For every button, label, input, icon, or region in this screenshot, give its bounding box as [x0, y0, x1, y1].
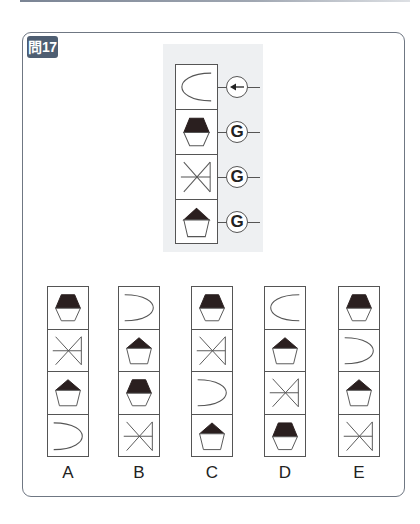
option-label[interactable]: E — [338, 463, 380, 483]
arrow-left-operator — [226, 76, 248, 98]
figure-cell — [119, 287, 159, 330]
arrow-left-icon — [229, 82, 245, 92]
figure-cell — [176, 65, 217, 110]
figure-cell — [119, 330, 159, 373]
figure-cell — [339, 415, 379, 458]
figure-cell — [48, 330, 88, 373]
g-operator: G — [226, 211, 248, 233]
figure-cell — [265, 330, 305, 373]
x-bar-icon — [48, 330, 88, 372]
pentagon-top-filled-icon — [339, 372, 379, 414]
answer-option-a[interactable] — [47, 286, 89, 457]
operator-text: G — [230, 122, 243, 142]
figure-cell — [176, 155, 217, 200]
answer-option-c[interactable] — [191, 286, 233, 457]
figure-cell — [192, 330, 232, 373]
top-divider — [20, 0, 410, 2]
figure-cell — [192, 415, 232, 458]
x-bar-icon — [176, 155, 217, 199]
x-bar-icon — [339, 415, 379, 458]
pentagon-top-filled-icon — [192, 415, 232, 458]
hexagon-half-filled-icon — [339, 287, 379, 329]
hexagon-half-filled-icon — [119, 372, 159, 414]
figure-cell — [265, 415, 305, 458]
pentagon-top-filled-icon — [119, 330, 159, 372]
figure-cell — [192, 372, 232, 415]
figure-cell — [339, 287, 379, 330]
figure-cell — [48, 415, 88, 458]
hexagon-half-filled-icon — [48, 287, 88, 329]
question-number-badge: 問17 — [27, 36, 58, 58]
arc-open-left-icon — [339, 330, 379, 372]
arc-open-right-icon — [265, 287, 305, 329]
answer-option-e[interactable] — [338, 286, 380, 457]
pentagon-top-filled-icon — [48, 372, 88, 414]
g-operator: G — [226, 121, 248, 143]
answer-option-b[interactable] — [118, 286, 160, 457]
x-bar-icon — [119, 415, 159, 458]
hexagon-half-filled-icon — [176, 110, 217, 154]
figure-cell — [265, 372, 305, 415]
figure-cell — [119, 372, 159, 415]
x-bar-icon — [192, 330, 232, 372]
question-figure-stack — [175, 64, 218, 244]
arc-open-right-icon — [176, 65, 217, 109]
figure-cell — [176, 200, 217, 245]
hexagon-half-filled-icon — [265, 415, 305, 458]
arc-open-left-icon — [48, 415, 88, 458]
figure-cell — [119, 415, 159, 458]
arc-open-left-icon — [119, 287, 159, 329]
option-label[interactable]: A — [47, 463, 89, 483]
answer-option-d[interactable] — [264, 286, 306, 457]
g-operator: G — [226, 166, 248, 188]
figure-cell — [176, 110, 217, 155]
pentagon-top-filled-icon — [176, 200, 217, 245]
option-label[interactable]: C — [191, 463, 233, 483]
pentagon-top-filled-icon — [265, 330, 305, 372]
hexagon-half-filled-icon — [192, 287, 232, 329]
x-bar-icon — [265, 372, 305, 414]
option-label[interactable]: B — [118, 463, 160, 483]
option-label[interactable]: D — [264, 463, 306, 483]
operator-text: G — [230, 212, 243, 232]
arc-open-left-icon — [192, 372, 232, 414]
figure-cell — [48, 287, 88, 330]
figure-cell — [339, 372, 379, 415]
figure-cell — [192, 287, 232, 330]
figure-cell — [265, 287, 305, 330]
figure-cell — [339, 330, 379, 373]
operator-text: G — [230, 167, 243, 187]
figure-cell — [48, 372, 88, 415]
